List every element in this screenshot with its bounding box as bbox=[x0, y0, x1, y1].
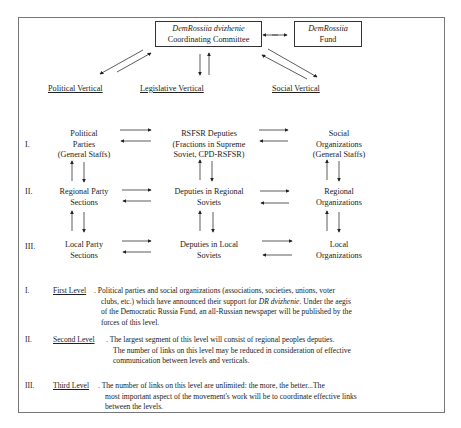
third-level-heading: Third Level bbox=[53, 381, 89, 391]
second-level-heading: Second Level bbox=[53, 335, 95, 345]
first-level-heading: First Level bbox=[53, 286, 86, 296]
dr-dvizhenie-term: DR dvizhenie bbox=[259, 297, 300, 306]
description-second-level: II. Second Level . The largest segment o… bbox=[25, 335, 435, 369]
description-third-level: III. Third Level . The number of links o… bbox=[25, 381, 440, 415]
description-first-level: I. First Level . Political parties and s… bbox=[25, 286, 435, 331]
